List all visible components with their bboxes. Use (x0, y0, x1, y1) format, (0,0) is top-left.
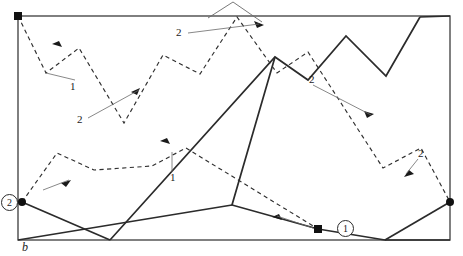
circled-marker-1: 1 (337, 220, 354, 237)
axis-label-b: b (22, 241, 28, 253)
callout-label-2-middle-right: 2 (309, 74, 315, 85)
dot-topleft (14, 12, 22, 20)
callout-label-2-top-middle: 2 (176, 27, 182, 38)
endpoint-dot-layer (0, 0, 463, 256)
dot-bottom-marker1 (314, 225, 322, 233)
reflection-diagram: 2 1 1 2 2 2 1 2 b (0, 0, 463, 256)
dot-left-marker2 (18, 198, 26, 206)
dot-right-edge (446, 198, 454, 206)
callout-label-2-right: 2 (418, 148, 424, 159)
callout-label-2-lower-left: 2 (77, 114, 83, 125)
circled-marker-2: 2 (1, 194, 18, 211)
callout-label-1-middle: 1 (170, 172, 176, 183)
callout-label-1-upper-left: 1 (70, 81, 76, 92)
